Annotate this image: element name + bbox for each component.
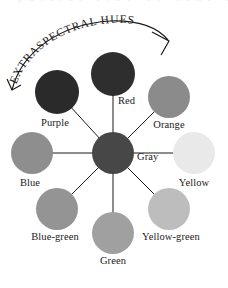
hue-label-yellow: Yellow [179,177,210,188]
hue-label-yellow-green: Yellow-green [142,231,201,242]
hue-circle-green[interactable] [92,212,134,254]
spoke-orange [127,111,155,139]
hue-circle-purple[interactable] [35,70,79,114]
hue-label-blue-green: Blue-green [31,231,79,242]
arc-arrow-head-icon [152,32,169,55]
hue-label-red: Red [118,95,136,106]
center-circle-gray[interactable] [92,132,134,174]
color-wheel-figure: partial line of text cropped at top edge… [0,0,228,288]
hue-circle-yellow-green[interactable] [148,188,190,230]
hue-circle-blue[interactable] [11,132,53,174]
hue-label-orange: Orange [153,119,185,130]
spoke-blue-green [71,167,99,195]
hue-label-blue: Blue [20,177,40,188]
spoke-purple [71,107,99,138]
hue-circle-orange[interactable] [148,76,190,118]
hue-label-green: Green [100,255,127,266]
extraspectral-arc-annotation: EXTRASPECTRAL HUES [7,13,170,92]
hue-circle-yellow[interactable] [173,132,215,174]
color-wheel-svg: RedOrangeYellowYellow-greenGreenBlue-gre… [0,0,228,288]
hue-label-purple: Purple [41,117,69,128]
spoke-yellow-green [127,167,155,195]
hue-circle-blue-green[interactable] [36,188,78,230]
center-label-gray: Gray [137,151,159,162]
hue-circle-red[interactable] [91,52,135,96]
